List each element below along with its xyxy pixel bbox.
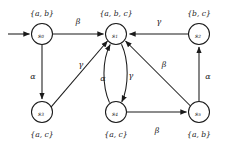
edge-label-s0-s1: β (75, 17, 81, 26)
node-s3[interactable]: s3 {a, c} (30, 102, 53, 140)
edge-s3-s1: γ (51, 41, 107, 107)
node-s4[interactable]: s4 {a, c} (104, 102, 127, 140)
node-s2-set-label: {b, c} (187, 9, 211, 18)
edge-s4-s5: β (127, 112, 187, 135)
edge-label-s1-s4: γ (129, 71, 134, 80)
edge-s5-s1: β (126, 41, 191, 106)
node-s3-set-label: {a, c} (30, 130, 53, 139)
node-s0[interactable]: s0 {a, b} (30, 9, 54, 45)
node-s4-subscript: 4 (114, 112, 118, 117)
edge-label-s4-s1: α (100, 74, 106, 83)
edge-label-s5-s1: β (161, 60, 167, 69)
automaton-diagram: β α γ γ α γ β (0, 0, 237, 151)
edge-label-s5-s2: α (205, 72, 211, 81)
edge-s1-s4: γ (122, 44, 134, 102)
edge-s0-s1: β (53, 17, 104, 34)
node-s1-subscript: 1 (115, 34, 118, 39)
node-s5-subscript: 5 (198, 112, 201, 117)
node-s4-set-label: {a, c} (104, 130, 127, 139)
edge-label-s3-s1: γ (79, 60, 84, 69)
edge-s4-s1: α (100, 45, 110, 103)
edge-s5-s2: α (199, 47, 211, 102)
node-s1-set-label: {a, b, c} (100, 9, 133, 18)
edge-label-s4-s5: β (154, 126, 160, 135)
edge-label-s2-s1: γ (157, 17, 162, 26)
node-s0-subscript: 0 (41, 34, 44, 39)
node-s5[interactable]: s5 {a, b} (187, 102, 211, 140)
node-s0-set-label: {a, b} (30, 9, 54, 18)
node-s2[interactable]: s2 {b, c} (187, 9, 211, 45)
node-s1[interactable]: s1 {a, b, c} (100, 9, 133, 45)
node-s5-set-label: {a, b} (187, 130, 211, 139)
node-s2-subscript: 2 (197, 34, 201, 39)
automaton-canvas: β α γ γ α γ β (0, 0, 237, 151)
node-s3-subscript: 3 (41, 112, 44, 117)
edge-s0-s3: α (30, 45, 42, 100)
edge-s2-s1: γ (130, 17, 189, 34)
edge-label-s0-s3: α (30, 72, 36, 81)
